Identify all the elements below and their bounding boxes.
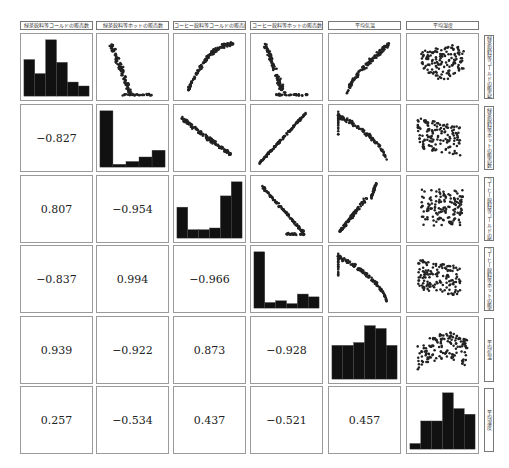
scatter-point: [425, 262, 428, 265]
scatter-point: [292, 125, 295, 128]
scatter-point: [428, 355, 431, 358]
scatter-point: [262, 158, 265, 161]
correlation-panel: 0.994: [96, 245, 169, 313]
scatter-point: [339, 229, 342, 232]
scatter-point: [454, 339, 457, 342]
scatter-point: [423, 261, 426, 264]
correlation-value: −0.837: [21, 246, 92, 312]
scatter-point: [453, 281, 456, 284]
scatter-point: [447, 269, 450, 272]
scatter-point: [417, 360, 420, 363]
scatter-point: [453, 137, 456, 140]
correlation-panel: −0.837: [20, 245, 93, 313]
scatter-point: [451, 133, 454, 136]
scatter-point: [460, 200, 463, 203]
scatter-point: [231, 42, 234, 45]
scatter-point: [382, 291, 385, 294]
scatter-point: [417, 276, 420, 279]
scatter-point: [437, 77, 440, 80]
scatter-point: [278, 94, 281, 97]
scatter-point: [374, 280, 377, 283]
scatter-point: [189, 122, 192, 125]
scatter-point: [442, 70, 445, 73]
scatter-point: [441, 290, 444, 293]
scatter-point: [370, 276, 373, 279]
scatter-point: [352, 125, 355, 128]
row-label: 緑茶飲料等ホットの販売数: [484, 106, 494, 170]
scatter-point: [355, 209, 358, 212]
scatter-point: [285, 132, 288, 135]
scatter-plot: [174, 34, 245, 100]
scatter-point: [431, 354, 434, 357]
scatter-point: [423, 279, 426, 282]
scatter-point: [456, 134, 459, 137]
scatter-point: [432, 219, 435, 222]
scatter-point: [265, 47, 268, 50]
scatter-point: [448, 221, 451, 224]
scatter-point: [461, 362, 464, 365]
scatter-point: [451, 47, 454, 50]
scatter-point: [456, 335, 459, 338]
scatter-point: [456, 145, 459, 148]
scatter-point: [450, 197, 453, 200]
scatter-point: [435, 65, 438, 68]
scatter-point: [448, 352, 451, 355]
scatter-point: [442, 219, 445, 222]
scatter-point: [383, 295, 386, 298]
scatter-point: [459, 221, 462, 224]
scatter-point: [418, 138, 421, 141]
scatter-point: [448, 151, 451, 154]
scatter-point: [438, 211, 441, 214]
scatter-point: [124, 79, 127, 82]
scatter-point: [282, 136, 285, 139]
scatter-point: [440, 127, 443, 130]
scatter-point: [226, 149, 229, 152]
scatter-point: [422, 344, 425, 347]
scatter-point: [431, 68, 434, 71]
scatter-point: [423, 138, 426, 141]
scatter-point: [361, 130, 364, 133]
correlation-panel: −0.521: [250, 386, 323, 454]
correlation-panel: 0.939: [20, 316, 93, 384]
scatter-point: [289, 233, 292, 236]
scatter-point: [445, 195, 448, 198]
scatter-point: [283, 91, 286, 94]
scatter-point: [440, 77, 443, 80]
scatter-point: [356, 127, 359, 130]
histogram-bar: [297, 294, 308, 308]
scatter-point: [436, 74, 439, 77]
scatter-point: [337, 261, 340, 264]
scatter-point: [302, 116, 305, 119]
scatter-point: [428, 289, 431, 292]
scatter-point: [228, 43, 231, 46]
scatter-point: [120, 63, 123, 66]
scatter-point: [375, 141, 378, 144]
scatter-plot: [407, 34, 478, 100]
scatter-point: [446, 349, 449, 352]
scatter-point: [359, 269, 362, 272]
scatter-point: [461, 345, 464, 348]
scatter-point: [446, 134, 449, 137]
scatter-point: [190, 82, 193, 85]
scatter-point: [453, 143, 456, 146]
scatter-point: [289, 217, 292, 220]
scatter-point: [443, 199, 446, 202]
scatter-point: [428, 144, 431, 147]
correlation-value: −0.922: [97, 317, 168, 383]
correlation-panel: −0.928: [250, 316, 323, 384]
scatter-point: [448, 74, 451, 77]
scatter-point: [458, 219, 461, 222]
scatter-point: [458, 142, 461, 145]
scatter-point: [430, 145, 433, 148]
scatter-point: [351, 215, 354, 218]
scatter-point: [337, 113, 340, 116]
scatter-point: [419, 259, 422, 262]
scatter-panel: [406, 245, 479, 313]
scatter-point: [429, 208, 432, 211]
scatter-point: [433, 124, 436, 127]
scatter-point: [446, 126, 449, 129]
scatter-point: [440, 224, 443, 227]
scatter-point: [450, 201, 453, 204]
scatter-point: [423, 289, 426, 292]
scatter-point: [424, 50, 427, 53]
